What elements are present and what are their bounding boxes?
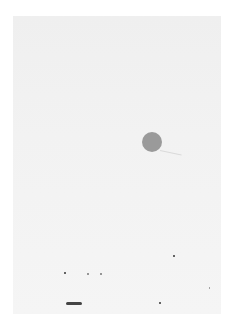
speck bbox=[159, 302, 161, 304]
speck bbox=[173, 255, 175, 257]
speck bbox=[209, 287, 210, 289]
paper-sheet bbox=[13, 16, 221, 314]
speck bbox=[100, 273, 102, 275]
speck bbox=[64, 272, 66, 274]
dark-smudge bbox=[66, 302, 82, 305]
speck bbox=[87, 273, 89, 275]
gray-dot bbox=[142, 132, 162, 152]
